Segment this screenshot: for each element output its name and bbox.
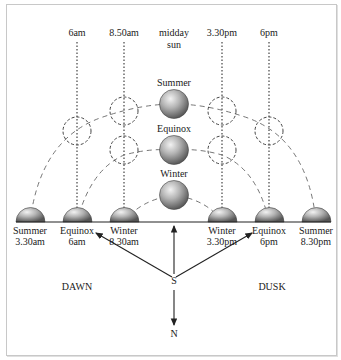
svg-text:Summer: Summer [13,225,48,236]
svg-text:midday: midday [159,27,189,38]
north-label: N [170,328,177,339]
svg-text:Winter: Winter [160,168,188,179]
svg-text:Winter: Winter [208,225,236,236]
svg-text:3.30pm: 3.30pm [207,236,238,247]
svg-text:6am: 6am [68,236,85,247]
svg-text:Equinox: Equinox [60,225,94,236]
svg-text:3.30am: 3.30am [15,236,45,247]
horizon-labels: Summer 3.30am Equinox 6am Winter 8.30am … [13,225,334,247]
svg-text:8.30am: 8.30am [109,236,139,247]
dusk-label: DUSK [258,281,286,292]
winter-midday-sun [160,181,189,210]
svg-text:3.30pm: 3.30pm [207,27,238,38]
south-label: S [171,275,177,286]
svg-text:Summer: Summer [299,225,334,236]
time-labels: 6am 8.50am midday sun 3.30pm 6pm [68,27,278,50]
dawn-label: DAWN [62,281,92,292]
svg-text:8.30pm: 8.30pm [301,236,332,247]
sun-path-diagram: 6am 8.50am midday sun 3.30pm 6pm Summer … [0,0,341,360]
svg-text:Equinox: Equinox [157,123,191,134]
svg-text:Equinox: Equinox [252,225,286,236]
svg-text:Summer: Summer [157,77,192,88]
svg-text:6pm: 6pm [260,236,278,247]
svg-text:8.50am: 8.50am [109,27,139,38]
summer-midday-sun [160,90,189,119]
svg-text:6am: 6am [68,27,85,38]
midday-suns [160,90,189,210]
svg-text:6pm: 6pm [260,27,278,38]
svg-text:Winter: Winter [110,225,138,236]
svg-text:sun: sun [167,39,181,50]
equinox-midday-sun [160,136,189,165]
